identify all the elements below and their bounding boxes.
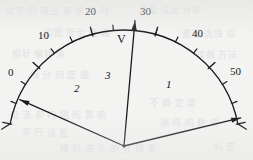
needle-label-3: 3 (105, 70, 111, 81)
needle-arrowhead-1 (231, 118, 241, 123)
needle-arrowhead-2 (20, 100, 30, 106)
minor-tick (222, 81, 227, 84)
unit-label-volt: V (117, 33, 126, 45)
arc-end-hook-left (2, 124, 10, 129)
major-tick (208, 62, 215, 68)
minor-tick (51, 49, 54, 53)
meter-scale-figure (0, 0, 253, 160)
needle-group (20, 20, 241, 146)
needle-label-2: 2 (74, 83, 80, 94)
minor-tick (175, 37, 177, 42)
minor-tick (21, 81, 26, 84)
needle-label-1: 1 (166, 79, 172, 90)
scale-label-40: 40 (192, 28, 203, 39)
needle-line-2 (20, 100, 124, 146)
minor-tick (113, 25, 114, 30)
major-tick (33, 62, 40, 68)
scale-label-50: 50 (230, 66, 241, 77)
minor-tick (70, 37, 72, 42)
scale-label-0: 0 (8, 67, 14, 78)
needle-line-1 (124, 118, 241, 146)
arc-end-hook-right (238, 124, 246, 129)
minor-tick (232, 101, 237, 103)
minor-tick (156, 29, 157, 34)
scale-label-30: 30 (140, 6, 151, 17)
needle-arrowhead-3 (132, 20, 137, 30)
minor-tick (194, 49, 197, 53)
minor-tick (11, 101, 16, 103)
pivot-point (123, 145, 126, 148)
scale-label-10: 10 (38, 30, 49, 41)
scale-label-20: 20 (85, 6, 96, 17)
